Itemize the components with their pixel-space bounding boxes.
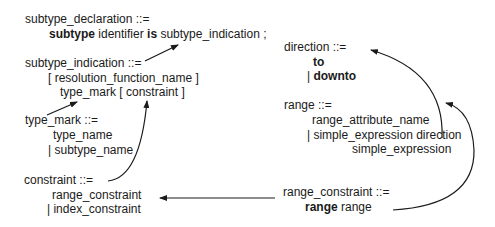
- arrow-constraint-to-subtype-indication: [108, 101, 147, 181]
- arrow-range-to-direction: [371, 50, 442, 138]
- arrow-subtype-indication-to-declaration: [145, 45, 178, 61]
- arrow-type-mark-to-subtype-indication: [47, 102, 77, 115]
- arrow-range-constraint-to-range: [393, 103, 474, 210]
- arrows-layer: [0, 0, 495, 227]
